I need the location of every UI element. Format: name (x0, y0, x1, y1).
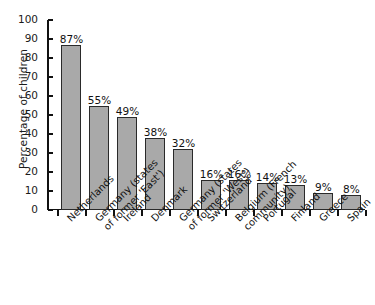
y-tick-label: 20 (25, 165, 38, 177)
bar-chart: Percentage of children 01020304050607080… (0, 0, 375, 305)
y-tick-label: 50 (25, 108, 38, 120)
y-tick-mark (48, 38, 53, 40)
y-tick-mark (48, 95, 53, 97)
x-axis-tick (57, 210, 59, 216)
y-tick-mark (48, 152, 53, 154)
y-tick-label: 30 (25, 146, 38, 158)
bar: 87% (61, 45, 82, 210)
y-tick-label: 10 (25, 184, 38, 196)
y-tick-label: 40 (25, 127, 38, 139)
y-tick-label: 80 (25, 51, 38, 63)
plot-area: 0102030405060708090100 87%55%49%38%32%16… (47, 20, 365, 210)
bar-value-label: 32% (172, 137, 195, 149)
bar-value-label: 38% (144, 126, 167, 138)
bar-value-label: 87% (60, 33, 83, 45)
y-tick-label: 0 (31, 203, 38, 215)
y-tick-label: 70 (25, 70, 38, 82)
y-tick-mark (48, 209, 53, 211)
bar-value-label: 9% (315, 181, 332, 193)
y-tick-mark (48, 57, 53, 59)
y-tick-label: 90 (25, 32, 38, 44)
y-tick-mark (48, 190, 53, 192)
y-tick-mark (48, 114, 53, 116)
y-tick-label: 100 (18, 13, 38, 25)
y-tick-mark (48, 133, 53, 135)
y-tick-mark (48, 171, 53, 173)
y-tick-mark (48, 76, 53, 78)
y-tick-label: 60 (25, 89, 38, 101)
bar-value-label: 55% (88, 94, 111, 106)
bar-value-label: 49% (116, 105, 139, 117)
y-tick-mark (48, 19, 53, 21)
bar-value-label: 8% (343, 183, 360, 195)
